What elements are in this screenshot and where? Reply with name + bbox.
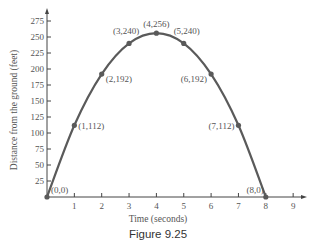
point-label: (0,0)	[51, 185, 68, 195]
y-tick-label: 200	[31, 64, 45, 74]
data-point	[236, 123, 241, 128]
y-tick-label: 75	[35, 144, 45, 154]
x-tick-label: 2	[99, 201, 104, 211]
x-axis-title: Time (seconds)	[129, 214, 188, 225]
x-axis-arrow-icon	[301, 195, 307, 199]
x-tick-label: 3	[127, 201, 132, 211]
figure-caption: Figure 9.25	[129, 228, 187, 240]
y-tick-label: 175	[31, 80, 45, 90]
y-tick-label: 225	[31, 48, 45, 58]
data-point	[126, 41, 131, 46]
data-point	[263, 194, 268, 199]
x-tick-label: 6	[209, 201, 214, 211]
data-point	[72, 123, 77, 128]
point-label: (4,256)	[143, 19, 169, 29]
y-tick-label: 125	[31, 112, 45, 122]
y-tick-label: 275	[31, 16, 45, 26]
y-axis-arrow-icon	[45, 8, 49, 14]
point-label: (2,192)	[106, 74, 132, 84]
x-tick-label: 9	[291, 201, 296, 211]
point-label: (7,112)	[209, 121, 235, 131]
x-tick-label: 7	[236, 201, 241, 211]
x-tick-label: 8	[264, 201, 269, 211]
data-point	[99, 72, 104, 77]
point-label: (6,192)	[181, 74, 207, 84]
y-tick-label: 25	[35, 176, 45, 186]
point-label: (3,240)	[113, 26, 139, 36]
data-point	[181, 41, 186, 46]
y-tick-label: 50	[35, 160, 45, 170]
data-point	[154, 31, 159, 36]
data-point	[44, 194, 49, 199]
x-tick-label: 5	[182, 201, 187, 211]
x-tick-label: 4	[154, 201, 159, 211]
point-label: (1,112)	[78, 121, 104, 131]
y-axis-title: Distance from the ground (feet)	[9, 50, 20, 170]
y-tick-label: 100	[31, 128, 45, 138]
trajectory-curve	[47, 33, 266, 197]
point-label: (5,240)	[174, 26, 200, 36]
chart-canvas: 255075100125150175200225250275123456789 …	[0, 0, 316, 250]
x-tick-label: 1	[72, 201, 77, 211]
point-label: (8,0)	[247, 185, 264, 195]
axis-ticks: 255075100125150175200225250275123456789	[31, 16, 296, 211]
y-tick-label: 250	[31, 32, 45, 42]
y-tick-label: 150	[31, 96, 45, 106]
data-point	[209, 72, 214, 77]
